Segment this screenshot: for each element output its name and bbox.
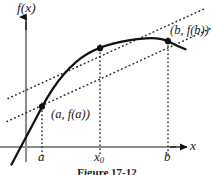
y-axis-label: f(x) — [17, 1, 36, 15]
secant-line-a-b — [7, 28, 212, 122]
x-tick-label-x0-subscript: 0 — [100, 155, 104, 165]
point-b-label: (b, f(b)) — [170, 24, 209, 37]
tangent-line-at-x0 — [8, 8, 206, 99]
point-b-marker — [165, 38, 171, 44]
figure-caption: Figure 17-12 — [0, 167, 214, 175]
x-axis-label: x — [190, 139, 196, 153]
point-x0-marker — [97, 45, 103, 51]
x-tick-label-x0: x0 — [94, 150, 104, 164]
point-a-marker — [39, 103, 45, 109]
figure-container: f(x) x a x0 b (a, f(a)) (b, f(b)) Figure… — [0, 0, 214, 175]
marked-points-group — [39, 38, 171, 110]
point-a-label: (a, f(a)) — [51, 108, 90, 121]
x-tick-label-b: b — [164, 150, 171, 163]
x-tick-label-a: a — [38, 150, 45, 163]
function-curve — [12, 38, 186, 164]
